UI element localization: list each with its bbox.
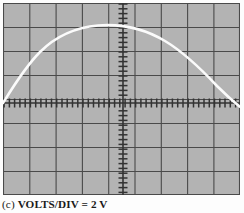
caption-text: VOLTS/DIV = 2 V <box>18 198 108 210</box>
figure-caption: (c) VOLTS/DIV = 2 V <box>2 197 242 212</box>
caption-label: (c) <box>2 198 15 210</box>
scope-graticule-svg <box>3 3 240 195</box>
scope-screen <box>3 3 240 195</box>
oscilloscope-figure: (c) VOLTS/DIV = 2 V <box>0 0 244 213</box>
